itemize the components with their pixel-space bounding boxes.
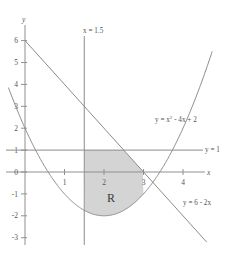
y-tick-label: 0 — [14, 168, 18, 177]
x-tick-label: 1 — [63, 178, 67, 187]
y-tick-label: 6 — [14, 36, 18, 45]
y-tick-label: -3 — [12, 233, 18, 242]
parabola-label-main: y = x — [155, 116, 170, 124]
graph-svg: 1234 6543210-1-2-3 x y x = 1.5 y = 1 y =… — [0, 0, 232, 257]
annotation-parabola-equation: y = x2 - 4x + 2 — [155, 115, 197, 124]
parabola-label-rest: - 4x + 2 — [172, 116, 197, 124]
annotation-y-equals-6-minus-2x: y = 6 - 2x — [183, 199, 211, 207]
y-axis-ticks — [21, 41, 27, 238]
shaded-region-R — [84, 150, 143, 216]
annotation-x-equals-1point5: x = 1.5 — [83, 27, 104, 35]
y-tick-label: 5 — [14, 58, 18, 67]
y-axis-tick-labels: 6543210-1-2-3 — [12, 36, 19, 242]
region-label-R: R — [107, 191, 115, 205]
x-tick-label: 2 — [102, 178, 106, 187]
annotation-y-equals-1: y = 1 — [205, 146, 220, 154]
y-axis-label: y — [21, 15, 26, 24]
x-tick-label: 3 — [142, 178, 146, 187]
x-tick-label: 4 — [181, 178, 185, 187]
y-tick-label: -1 — [12, 190, 18, 199]
figure-canvas: 1234 6543210-1-2-3 x y x = 1.5 y = 1 y =… — [0, 0, 232, 257]
y-tick-label: 2 — [14, 124, 18, 133]
y-tick-label: 4 — [14, 80, 18, 89]
y-tick-label: -2 — [12, 211, 18, 220]
x-axis-label: x — [206, 168, 211, 177]
